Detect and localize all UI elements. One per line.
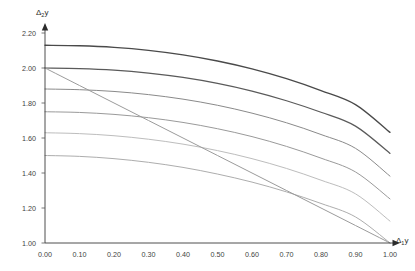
- x-tick-label: 0.80: [314, 250, 328, 259]
- y-tick-label: 1.00: [22, 239, 36, 248]
- x-tick-label: 1.00: [383, 250, 397, 259]
- y-tick-label: 1.40: [22, 169, 36, 178]
- y-tick-label: 1.60: [22, 134, 36, 143]
- x-tick-label: 0.90: [349, 250, 363, 259]
- series-line-curve-1: [45, 45, 390, 132]
- y-tick-label: 1.20: [22, 204, 36, 213]
- series-line-curve-6: [45, 156, 390, 244]
- series-line-curve-3: [45, 89, 390, 176]
- x-axis-title: Δ1y: [396, 236, 408, 246]
- y-tick-label: 2.20: [22, 29, 36, 38]
- y-tick-label: 1.80: [22, 99, 36, 108]
- y-axis-arrow-icon: [42, 23, 48, 31]
- x-axis-title-var: y: [404, 236, 408, 245]
- x-tick-label: 0.50: [211, 250, 225, 259]
- y-axis-title-var: y: [44, 8, 48, 17]
- x-tick-label: 0.10: [73, 250, 87, 259]
- y-tick-label: 2.00: [22, 64, 36, 73]
- line-chart: 1.001.201.401.601.802.002.200.000.100.20…: [0, 0, 415, 271]
- x-tick-label: 0.40: [176, 250, 190, 259]
- x-tick-label: 0.00: [38, 250, 52, 259]
- x-tick-label: 0.60: [245, 250, 259, 259]
- series-layer: [45, 45, 390, 243]
- series-line-curve-5: [45, 133, 390, 221]
- y-axis-title: Δ2y: [36, 8, 48, 18]
- x-tick-label: 0.20: [107, 250, 121, 259]
- chart-container: 1.001.201.401.601.802.002.200.000.100.20…: [0, 0, 415, 271]
- x-tick-label: 0.70: [280, 250, 294, 259]
- tick-label-layer: 1.001.201.401.601.802.002.200.000.100.20…: [22, 29, 397, 259]
- series-line-straight-line: [45, 68, 390, 243]
- x-tick-label: 0.30: [142, 250, 156, 259]
